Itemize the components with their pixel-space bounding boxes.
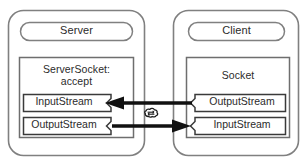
diagram-canvas: Server ServerSocket: accept InputStream … (0, 0, 307, 167)
client-inputstream-shape (191, 118, 286, 135)
diagram-graphics (0, 0, 307, 167)
client-host-pill (189, 23, 285, 41)
server-outputstream-shape (24, 118, 112, 135)
cloud-icon (145, 108, 158, 117)
server-host-pill (21, 23, 133, 41)
server-inputstream-shape (24, 95, 112, 112)
client-outputstream-shape (191, 95, 286, 112)
